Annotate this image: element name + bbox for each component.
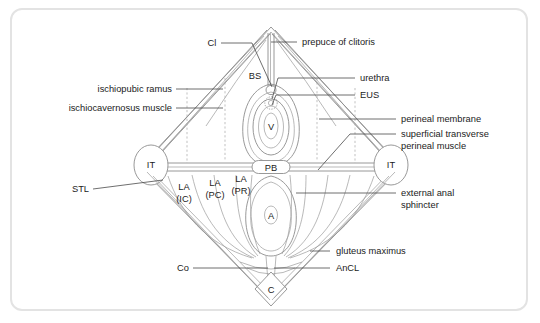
ischiocavernosus-muscle-lines [152,36,390,163]
label-stp-muscle-line1: superficial transverse [401,129,489,139]
label-external-anal-sphincter-line2: sphincter [401,200,439,210]
label-ischiocavernosus-muscle: ischiocavernosus muscle [69,103,172,113]
label-bs: BS [249,71,261,81]
label-la-pr-line2: (PR) [231,186,250,196]
label-prepuce-of-clitoris: prepuce of clitoris [302,37,375,47]
label-cl: Cl [208,38,217,48]
label-stp-muscle-line2: perineal muscle [401,141,466,151]
label-eus: EUS [360,90,379,100]
label-gluteus-maximus: gluteus maximus [336,246,406,256]
label-v: V [268,122,275,132]
leader-urethra [272,78,355,99]
label-perineal-membrane: perineal membrane [401,114,481,124]
label-pb: PB [265,163,277,173]
label-stl: STL [72,184,89,194]
label-it-left: IT [147,160,156,170]
label-urethra: urethra [360,73,390,83]
label-la-pc-line2: (PC) [205,190,224,200]
label-la-ic-line2: (IC) [176,194,192,204]
label-la-pr-line1: LA [235,174,247,184]
label-la-ic-line1: LA [178,182,190,192]
label-ancl: AnCL [336,263,359,273]
leader-cl [221,43,272,87]
label-it-right: IT [387,160,396,170]
label-a: A [268,211,275,221]
label-c: C [268,285,275,295]
label-ischiopubic-ramus: ischiopubic ramus [98,84,173,94]
label-co: Co [177,263,189,273]
label-la-pc-line1: LA [209,178,221,188]
label-external-anal-sphincter-line1: external anal [401,188,454,198]
anatomy-diagram: ischiopubic ramus ischiocavernosus muscl… [0,0,540,323]
